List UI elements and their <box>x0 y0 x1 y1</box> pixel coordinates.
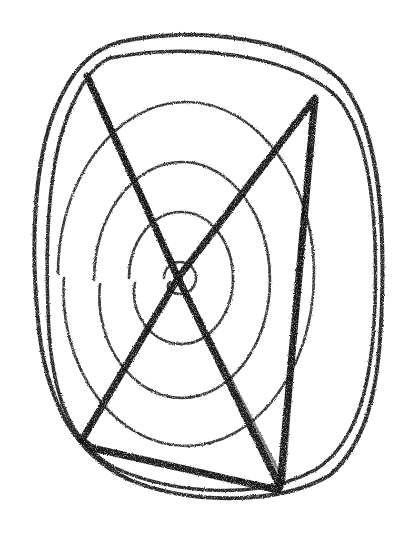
outer-loop-2 <box>47 51 375 490</box>
crayon-sketch <box>0 0 411 533</box>
